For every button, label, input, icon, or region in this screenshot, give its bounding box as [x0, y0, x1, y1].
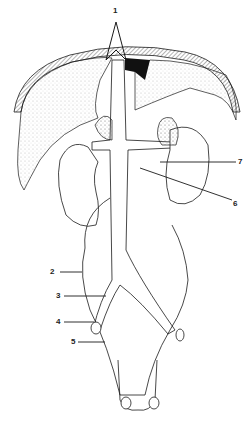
label-5: 5 [71, 338, 75, 346]
label-3: 3 [56, 292, 60, 300]
distal-knob-left [121, 397, 131, 409]
label-2: 2 [50, 268, 54, 276]
label-6: 6 [233, 200, 237, 208]
left-adrenal [95, 116, 112, 140]
label-4: 4 [56, 318, 60, 326]
right-adrenal [158, 117, 179, 145]
distal-knob-right [149, 397, 159, 409]
anatomy-diagram [0, 0, 251, 421]
right-stub [176, 329, 184, 341]
liver-right [135, 60, 236, 120]
left-stub [91, 322, 101, 334]
label-7: 7 [238, 158, 242, 166]
aorta [92, 60, 175, 334]
label-1: 1 [113, 7, 117, 15]
